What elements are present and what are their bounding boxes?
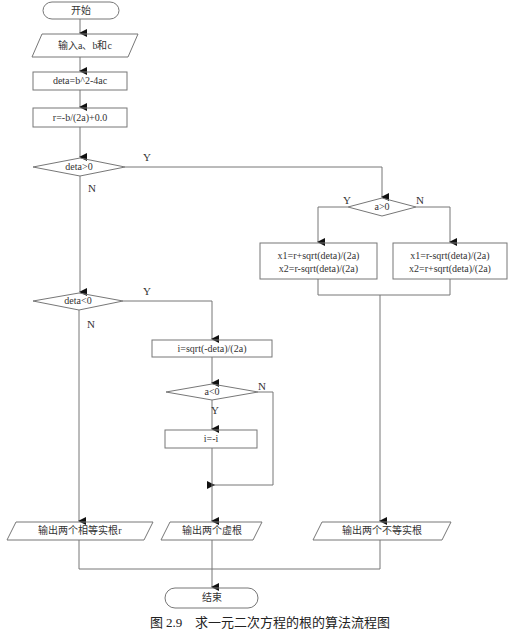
- deta-neg-label: deta<0: [33, 295, 123, 307]
- input-label: 输入a、b和c: [32, 40, 138, 52]
- a-neg-no: N: [258, 380, 266, 392]
- compute-i-label: i=sqrt(-deta)/(2a): [152, 343, 272, 355]
- deta-neg-yes: Y: [143, 285, 151, 297]
- a-neg-yes: Y: [211, 404, 219, 416]
- negate-i-label: i=-i: [165, 433, 257, 445]
- deta-neg-no: N: [87, 318, 95, 330]
- a-pos-label: a>0: [348, 201, 416, 213]
- a-neg-label: a<0: [166, 386, 258, 398]
- a-pos-line1: x1=r+sqrt(deta)/(2a): [260, 250, 377, 262]
- figure-caption: 图 2.9 求一元二次方程的根的算法流程图: [140, 612, 400, 631]
- output-imag-label: 输出两个虚根: [161, 525, 262, 537]
- a-neg-line2: x2=r+sqrt(deta)/(2a): [393, 263, 507, 275]
- a-pos-no: N: [416, 194, 424, 206]
- output-equal-label: 输出两个相等实根r: [7, 525, 153, 537]
- start-label: 开始: [43, 5, 119, 17]
- a-pos-yes: Y: [343, 194, 351, 206]
- a-neg-line1: x1=r-sqrt(deta)/(2a): [393, 250, 507, 262]
- a-pos-line2: x2=r-sqrt(deta)/(2a): [260, 263, 377, 275]
- deta-label: deta=b^2-4ac: [33, 75, 127, 87]
- deta-pos-yes: Y: [143, 151, 151, 163]
- deta-pos-label: deta>0: [33, 161, 125, 173]
- end-label: 结束: [165, 592, 258, 604]
- r-label: r=-b/(2a)+0.0: [33, 112, 127, 124]
- deta-pos-no: N: [88, 182, 96, 194]
- output-unequal-label: 输出两个不等实根: [313, 525, 451, 537]
